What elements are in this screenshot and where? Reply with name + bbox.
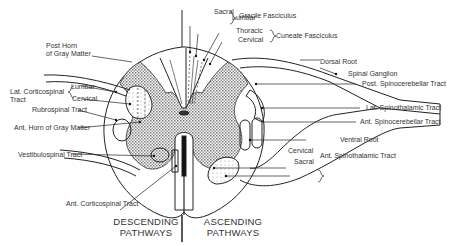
label-sacral-spinothalamic: Sacral (294, 158, 314, 166)
label-cervical-corticospinal: Cervical (72, 95, 97, 103)
label-ant-horn: Ant. Horn of Gray Matter (14, 124, 90, 132)
label-sacral-gracile: Sacral (214, 8, 234, 16)
label-spinal-ganglion: Spinal Ganglion (348, 70, 397, 78)
label-cervical-cuneate: Cervical (238, 36, 263, 44)
label-cervical-spinothalamic: Cervical (288, 147, 313, 155)
label-rubrospinal: Rubrospinal Tract (32, 106, 87, 114)
label-ant-corticospinal: Ant. Corticospinal Tract (66, 200, 138, 208)
label-lat-spinothalamic: Lat. Spinothalamic Tract (366, 104, 441, 112)
label-post-spinocerebellar: Post. Spinocerebellar Tract (362, 80, 446, 88)
label-descending-pathways: DESCENDING PATHWAYS (106, 216, 186, 238)
label-gracile-fasciculus: Gracile Fasciculus (239, 12, 296, 20)
label-thoracic: Thoracic (236, 27, 263, 35)
label-ant-spinocerebellar: Ant. Spinocerebellar Tract (360, 118, 441, 126)
label-ventral-root: Ventral Root (340, 136, 379, 144)
label-lumbar-corticospinal: Lumbar (71, 83, 95, 91)
label-vestibulospinal: Vestibulospinal Tract (18, 151, 82, 159)
label-post-horn-2: of Gray Matter (46, 50, 91, 58)
label-dorsal-root: Dorsal Root (320, 58, 357, 66)
label-cuneate-fasciculus: Cuneate Fasciculus (276, 32, 337, 40)
label-ant-spinothalamic: Ant. Spinothalamic Tract (320, 152, 396, 160)
label-lat-corticospinal: Lat. Corticospinal (10, 88, 64, 96)
spinal-cord-diagram: Sacral Lumbar Gracile Fasciculus Thoraci… (0, 0, 455, 246)
label-lat-corticospinal-2: Tract (10, 96, 26, 104)
label-post-horn: Post Horn (46, 42, 77, 50)
label-ascending-pathways: ASCENDING PATHWAYS (198, 216, 268, 238)
